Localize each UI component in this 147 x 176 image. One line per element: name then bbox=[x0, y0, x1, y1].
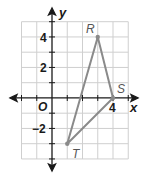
point-s bbox=[111, 96, 115, 100]
grid bbox=[22, 22, 129, 159]
tick-marks bbox=[22, 22, 129, 159]
x-axis-label: x bbox=[129, 100, 138, 115]
y-axis-label: y bbox=[58, 5, 67, 20]
x-tick-label-4: 4 bbox=[109, 101, 116, 115]
point-label-s: S bbox=[117, 82, 125, 96]
y-tick-label-2: 2 bbox=[40, 61, 47, 75]
origin-label: O bbox=[38, 100, 48, 114]
y-axis-down-arrow-icon bbox=[49, 164, 56, 171]
x-axis-left-arrow-icon bbox=[10, 95, 17, 102]
point-label-r: R bbox=[86, 22, 95, 36]
y-axis bbox=[49, 8, 56, 171]
y-tick-label-4: 4 bbox=[40, 31, 47, 45]
coordinate-plane: y x O 4 2 −2 4 R S T bbox=[0, 0, 147, 176]
point-r bbox=[96, 35, 100, 39]
y-tick-label-neg2: −2 bbox=[32, 122, 46, 136]
y-axis-up-arrow-icon bbox=[49, 8, 56, 15]
point-t bbox=[65, 142, 69, 146]
triangle-rst bbox=[67, 37, 113, 144]
